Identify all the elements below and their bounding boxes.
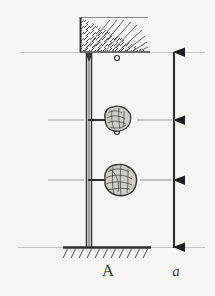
hatched-ceiling	[80, 17, 150, 52]
pin-joint-top	[115, 56, 120, 61]
sketch-drawing	[0, 0, 215, 296]
diagram-label: a	[172, 264, 181, 279]
column-label: A	[102, 262, 115, 279]
upper-mass	[105, 106, 131, 131]
figure-canvas: A a	[0, 0, 215, 296]
lower-mass	[105, 164, 137, 195]
guideline-group	[18, 53, 205, 248]
vertical-column	[86, 53, 93, 247]
scale-line-group	[173, 48, 185, 253]
hatched-ground	[63, 248, 151, 259]
